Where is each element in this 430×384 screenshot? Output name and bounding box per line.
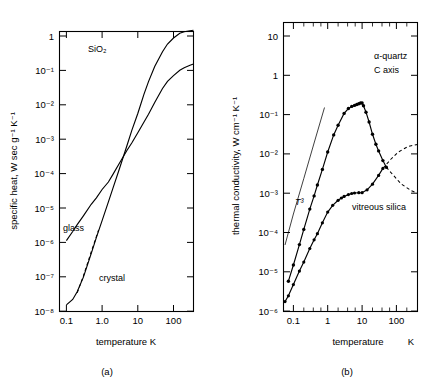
panel-a-y-ticks: [60, 36, 194, 311]
panel-a-y-tick-labels: 1 10⁻¹ 10⁻² 10⁻³ 10⁻⁴ 10⁻⁵ 10⁻⁶ 10⁻⁷ 10⁻…: [34, 31, 54, 317]
sample-label-sio2: SiO₂: [88, 44, 107, 54]
panel-a-x-axis-title: temperature K: [96, 336, 157, 347]
y-tick-label: 10⁻¹: [35, 65, 54, 76]
data-points-alpha-quartz: [287, 101, 388, 283]
annotation-alpha-quartz: α-quartz: [374, 51, 408, 61]
annotation-c-axis: C axis: [374, 65, 400, 75]
y-tick-label: 10⁻⁴: [34, 168, 54, 179]
curve-alpha-quartz: [288, 103, 386, 281]
panel-b-y-tick-labels: 10 1 10⁻¹ 10⁻² 10⁻³ 10⁻⁴ 10⁻⁵ 10⁻⁶: [258, 31, 278, 317]
panel-a-plot-frame: [60, 32, 194, 312]
panel-b-x-axis-title: temperature: [332, 336, 383, 347]
y-tick-label: 10⁻⁵: [34, 203, 54, 214]
panel-b-x-tick-labels: 0.1 1 10 100: [287, 315, 405, 326]
panel-a-x-tick-labels: 0.1 1.0 10 100: [60, 315, 182, 326]
panel-b-y-axis-title: thermal conductivity, W cm⁻¹ K⁻¹: [230, 97, 241, 235]
y-tick-label: 10⁻²: [259, 148, 278, 159]
y-tick-label: 10⁻⁸: [34, 306, 54, 317]
panel-b-svg: 10 1 10⁻¹ 10⁻² 10⁻³ 10⁻⁴ 10⁻⁵ 10⁻⁶: [215, 0, 430, 384]
panel-b-thermal-conductivity: 10 1 10⁻¹ 10⁻² 10⁻³ 10⁻⁴ 10⁻⁵ 10⁻⁶: [215, 0, 430, 384]
figure-container: 1 10⁻¹ 10⁻² 10⁻³ 10⁻⁴ 10⁻⁵ 10⁻⁶ 10⁻⁷ 10⁻…: [0, 0, 430, 384]
y-tick-label: 10⁻⁵: [258, 266, 278, 277]
curve-glass: [66, 64, 193, 241]
curve-crystal: [66, 30, 193, 305]
panel-a-y-axis-title: specific heat, W sec g⁻¹ K⁻¹: [8, 112, 19, 230]
panel-a-svg: 1 10⁻¹ 10⁻² 10⁻³ 10⁻⁴ 10⁻⁵ 10⁻⁶ 10⁻⁷ 10⁻…: [0, 0, 215, 384]
panel-a-x-ticks: [66, 32, 173, 312]
y-tick-label: 10⁻⁶: [35, 237, 55, 248]
y-tick-label: 1: [273, 70, 278, 81]
x-tick-label: 0.1: [287, 315, 300, 326]
annotation-t-cubed: T³: [295, 197, 304, 207]
y-tick-label: 10⁻⁷: [35, 271, 55, 282]
curve-vitreous-silica: [285, 168, 383, 301]
series-label-crystal: crystal: [99, 273, 125, 283]
x-tick-label: 10: [357, 315, 368, 326]
curve-vitreous-silica-extrapolation: [383, 145, 418, 169]
panel-a-specific-heat: 1 10⁻¹ 10⁻² 10⁻³ 10⁻⁴ 10⁻⁵ 10⁻⁶ 10⁻⁷ 10⁻…: [0, 0, 215, 384]
y-tick-label: 1: [49, 31, 54, 42]
y-tick-label: 10⁻¹: [259, 109, 278, 120]
x-tick-label: 10: [133, 315, 144, 326]
y-tick-label: 10: [267, 31, 278, 42]
series-label-glass: glass: [63, 223, 85, 233]
annotation-vitreous-silica: vitreous silica: [352, 202, 406, 212]
panel-a-caption: (a): [101, 366, 113, 377]
y-tick-label: 10⁻²: [35, 99, 54, 110]
y-tick-label: 10⁻⁴: [258, 227, 278, 238]
y-tick-label: 10⁻³: [35, 134, 54, 145]
x-tick-label: 1.0: [95, 315, 108, 326]
y-tick-label: 10⁻⁶: [259, 306, 279, 317]
x-tick-label: 1: [325, 315, 330, 326]
panel-b-y-ticks: [284, 36, 418, 311]
y-tick-label: 10⁻³: [259, 188, 278, 199]
x-tick-label: 100: [388, 315, 404, 326]
curve-alpha-quartz-extrapolation: [386, 167, 417, 193]
panel-b-caption: (b): [341, 366, 353, 377]
x-tick-label: 100: [166, 315, 182, 326]
panel-b-x-axis-unit: K: [408, 336, 415, 347]
x-tick-label: 0.1: [60, 315, 73, 326]
